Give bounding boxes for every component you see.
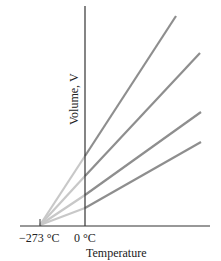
series-line-1: [85, 16, 176, 156]
y-axis-label: Volume, V: [67, 73, 81, 125]
data-lines: [85, 16, 201, 208]
charles-law-chart: −273 °C 0 °C Temperature Volume, V: [0, 0, 221, 261]
series-line-3: [85, 112, 201, 195]
series-line-4: [85, 142, 201, 208]
x-axis-label: Temperature: [86, 246, 146, 260]
extrapolated-segments: [40, 156, 85, 225]
xtick-zero: 0 °C: [74, 231, 96, 245]
series-line-2: [85, 53, 200, 176]
xtick-abs-zero: −273 °C: [19, 231, 60, 245]
